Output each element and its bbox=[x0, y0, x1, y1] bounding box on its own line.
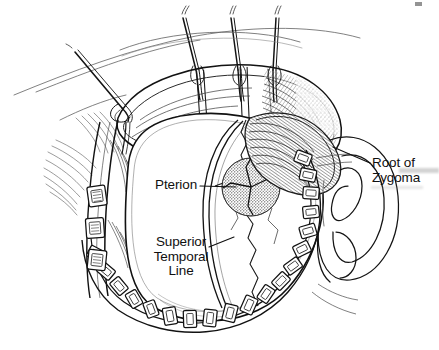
clip bbox=[299, 167, 317, 182]
clip bbox=[302, 205, 319, 219]
scan-smudge-artifact bbox=[371, 186, 423, 189]
label-superior-temporal-line: Superior Temporal Line bbox=[135, 235, 227, 279]
clip bbox=[85, 217, 104, 238]
clip bbox=[303, 186, 320, 199]
clip bbox=[87, 185, 108, 207]
clip bbox=[87, 249, 107, 271]
clip bbox=[109, 276, 128, 296]
clip bbox=[162, 307, 178, 326]
clip bbox=[183, 310, 197, 327]
label-pterion: Pterion bbox=[155, 178, 197, 193]
corner-scan-mark bbox=[415, 2, 422, 6]
scan-smudge-artifact bbox=[399, 168, 439, 173]
clip bbox=[203, 309, 218, 327]
surgical-illustration-figure: Pterion Superior Temporal Line Root of Z… bbox=[0, 0, 439, 350]
